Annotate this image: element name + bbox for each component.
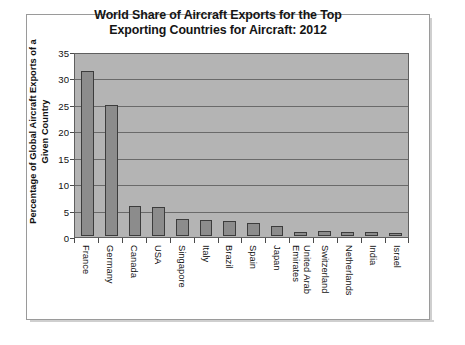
bar-singapore [176, 219, 189, 236]
x-axis-tick-mark [241, 238, 265, 243]
y-axis-tick-mark [70, 212, 74, 213]
y-axis-tick-mark [70, 79, 74, 80]
bar-italy [200, 220, 213, 236]
x-axis-label-brazil: Brazil [224, 245, 235, 268]
x-axis-tick-mark [122, 238, 146, 243]
x-axis-label-slot: Canada [122, 245, 146, 315]
bar-switzerland [318, 231, 331, 236]
bar-slot [383, 55, 407, 236]
x-axis-label-slot: Germany [98, 245, 122, 315]
y-axis-tick-label: 25 [47, 100, 69, 111]
bar-slot [312, 55, 336, 236]
y-axis-tick-label: 5 [47, 206, 69, 217]
x-axis-ticks [74, 238, 409, 243]
x-axis-label-slot: USA [146, 245, 170, 315]
x-axis-label-slot: United ArabEmirates [289, 245, 313, 315]
figure-frame-shadow [30, 320, 434, 322]
x-axis-tick-mark [337, 238, 361, 243]
x-axis-label-united-arab-emirates: United ArabEmirates [291, 245, 312, 294]
x-axis-label-israel: Israel [392, 245, 403, 268]
y-axis-tick-mark [70, 53, 74, 54]
y-axis-tick-label: 15 [47, 153, 69, 164]
bar-slot [123, 55, 147, 236]
bar-slot [147, 55, 171, 236]
x-axis-label-switzerland: Switzerland [320, 245, 331, 293]
x-axis-label-singapore: Singapore [176, 245, 187, 288]
figure-frame-right-shadow [430, 18, 432, 322]
bar-israel [389, 233, 402, 236]
chart-title-line-2: Exporting Countries for Aircraft: 2012 [48, 23, 388, 38]
bar-slot [100, 55, 124, 236]
x-axis-tick-mark [194, 238, 218, 243]
bar-germany [105, 105, 118, 236]
x-axis-label-france: France [81, 245, 92, 274]
chart-title-line-1: World Share of Aircraft Exports for the … [48, 8, 388, 23]
bar-slot [360, 55, 384, 236]
x-axis-tick-mark [146, 238, 170, 243]
x-axis-label-canada: Canada [129, 245, 140, 278]
bar-slot [336, 55, 360, 236]
plot-wrapper: 05101520253035 [74, 53, 409, 238]
bar-slot [265, 55, 289, 236]
x-axis-label-italy: Italy [200, 245, 211, 262]
bar-spain [247, 223, 260, 236]
x-axis-label-slot: Switzerland [313, 245, 337, 315]
y-axis-tick-label: 35 [47, 48, 69, 59]
x-axis-tick-mark [98, 238, 122, 243]
bar-slot [171, 55, 195, 236]
x-axis-label-slot: Japan [265, 245, 289, 315]
x-axis-label-netherlands: Netherlands [344, 245, 355, 296]
x-axis-category-labels: FranceGermanyCanadaUSASingaporeItalyBraz… [74, 245, 409, 315]
y-axis-tick-mark [70, 132, 74, 133]
bar-slot [218, 55, 242, 236]
y-axis-tick-label: 30 [47, 74, 69, 85]
bar-slot [289, 55, 313, 236]
x-axis-label-slot: Israel [385, 245, 409, 315]
x-axis-tick-mark [218, 238, 242, 243]
x-axis-tick-mark [361, 238, 385, 243]
y-axis-tick-label: 20 [47, 127, 69, 138]
y-axis-tick-label: 0 [47, 233, 69, 244]
x-axis-label-slot: Brazil [218, 245, 242, 315]
x-axis-label-slot: Spain [241, 245, 265, 315]
y-axis-tick-mark [70, 159, 74, 160]
x-axis-label-india: India [368, 245, 379, 265]
x-axis-label-slot: Singapore [170, 245, 194, 315]
bar-slot [76, 55, 100, 236]
plot-area [74, 53, 409, 238]
x-axis-label-slot: India [361, 245, 385, 315]
y-axis-tick-label: 10 [47, 180, 69, 191]
bar-united-arab-emirates [294, 232, 307, 236]
x-axis-label-slot: Netherlands [337, 245, 361, 315]
bar-japan [271, 226, 284, 236]
x-axis-tick-mark [74, 238, 98, 243]
x-axis-label-usa: USA [152, 245, 163, 264]
chart-title: World Share of Aircraft Exports for the … [48, 8, 388, 38]
bar-netherlands [341, 232, 354, 236]
x-axis-tick-mark [265, 238, 289, 243]
bar-slot [241, 55, 265, 236]
x-axis-tick-mark [385, 238, 409, 243]
bar-canada [129, 206, 142, 236]
bar-india [365, 232, 378, 236]
y-axis-title-line-1: Percentage of Global Aircraft Exports of… [28, 17, 40, 247]
bar-brazil [223, 221, 236, 236]
bar-usa [152, 207, 165, 236]
x-axis-tick-mark [170, 238, 194, 243]
x-axis-label-japan: Japan [272, 245, 283, 271]
y-axis-tick-mark [70, 185, 74, 186]
x-axis-tick-mark [313, 238, 337, 243]
y-axis-tick-mark [70, 106, 74, 107]
x-axis-label-slot: Italy [194, 245, 218, 315]
bar-france [81, 71, 94, 236]
bar-series [76, 55, 407, 236]
bar-slot [194, 55, 218, 236]
x-axis-label-spain: Spain [248, 245, 259, 269]
x-axis-tick-mark [289, 238, 313, 243]
x-axis-label-slot: France [74, 245, 98, 315]
x-axis-label-germany: Germany [105, 245, 116, 284]
